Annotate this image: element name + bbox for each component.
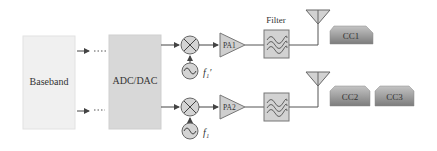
local-oscillator-icon [182, 123, 198, 139]
lo-frequency-label: f₁ [203, 127, 209, 138]
baseband-label: Baseband [30, 76, 69, 87]
lo-frequency-label: f₁′ [203, 67, 212, 78]
component-carrier-cc3: CC3 [375, 86, 414, 106]
pa2-label: PA2 [223, 103, 236, 112]
mixer-icon [181, 36, 199, 54]
transmitter-diagram: Baseband ADC/DAC f₁′ PA1 Filt [0, 0, 437, 151]
pa1-label: PA1 [223, 41, 236, 50]
component-carrier-cc1: CC1 [330, 26, 373, 44]
power-amplifier-1: PA1 [220, 33, 245, 57]
adc-dac-label: ADC/DAC [112, 75, 157, 86]
baseband-to-adc-bottom [77, 110, 105, 111]
baseband-block: Baseband [23, 36, 75, 129]
cc2-label: CC2 [342, 92, 359, 102]
adc-dac-block: ADC/DAC [109, 35, 161, 129]
antenna-icon [306, 10, 330, 24]
filter-label: Filter [266, 15, 286, 25]
cc1-label: CC1 [343, 31, 360, 41]
cc3-label: CC3 [386, 92, 403, 102]
component-carrier-cc2: CC2 [330, 86, 370, 106]
local-oscillator-icon [182, 63, 198, 79]
bandpass-filter-icon [264, 30, 289, 58]
mixer-icon [181, 98, 199, 116]
chain-2: f₁ PA2 CC2 CC3 [161, 72, 414, 139]
power-amplifier-2: PA2 [220, 95, 245, 119]
bandpass-filter-icon [264, 93, 289, 121]
chain-1: f₁′ PA1 Filter CC1 [161, 10, 373, 79]
antenna-icon [306, 72, 330, 86]
